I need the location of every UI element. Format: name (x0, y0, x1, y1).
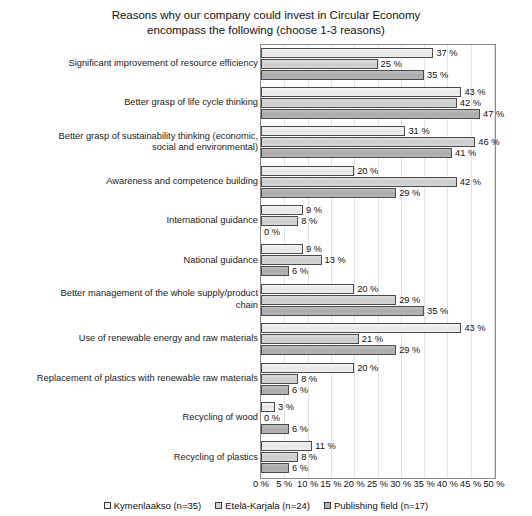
bar-group: 37 %25 %35 % (261, 48, 494, 80)
bar[interactable] (261, 177, 457, 187)
bar-value-label: 21 % (362, 334, 383, 344)
bar[interactable] (261, 109, 480, 119)
bar[interactable] (261, 374, 298, 384)
category-label-line: National guidance (8, 255, 258, 267)
bar-value-label: 43 % (464, 323, 485, 333)
bar-value-label: 8 % (301, 452, 317, 462)
bar[interactable] (261, 284, 354, 294)
legend-item[interactable]: Etelä-Karjala (n=24) (215, 500, 310, 511)
bar-group: 11 %8 %6 % (261, 441, 494, 473)
bar-value-label: 20 % (357, 284, 378, 294)
bar-slot: 6 % (261, 385, 494, 395)
legend-swatch-icon (215, 502, 222, 509)
bar-group: 20 %8 %6 % (261, 363, 494, 395)
bar-value-label: 43 % (464, 87, 485, 97)
category-label-line: International guidance (8, 215, 258, 227)
category-label: Recycling of plastics (8, 452, 258, 464)
legend-label: Publishing field (n=17) (334, 500, 428, 511)
legend-item[interactable]: Kymenlaakso (n=35) (104, 500, 201, 511)
bar-value-label: 29 % (399, 345, 420, 355)
category-label-line: Replacement of plastics with renewable r… (8, 373, 258, 385)
legend-swatch-icon (104, 502, 111, 509)
bar-value-label: 42 % (460, 177, 481, 187)
bar[interactable] (261, 216, 298, 226)
bar-slot: 29 % (261, 345, 494, 355)
bar[interactable] (261, 424, 289, 434)
chart-container: Reasons why our company could invest in … (0, 0, 532, 516)
chart-row: Better grasp of sustainability thinking … (0, 123, 532, 162)
legend-label: Etelä-Karjala (n=24) (225, 500, 310, 511)
bar[interactable] (261, 452, 298, 462)
bar-value-label: 6 % (292, 463, 308, 473)
bar[interactable] (261, 70, 424, 80)
bar-value-label: 8 % (301, 216, 317, 226)
legend-item[interactable]: Publishing field (n=17) (324, 500, 428, 511)
bar-slot: 8 % (261, 216, 494, 226)
bar[interactable] (261, 98, 457, 108)
bar[interactable] (261, 166, 354, 176)
bar-slot: 0 % (261, 413, 494, 423)
category-label-line: Recycling of plastics (8, 452, 258, 464)
x-axis-tick-label: 5 % (276, 479, 292, 489)
bar-slot: 9 % (261, 205, 494, 215)
bar[interactable] (261, 87, 461, 97)
x-axis-tick-label: 20 % (344, 479, 365, 489)
bar-slot: 47 % (261, 109, 494, 119)
bar-value-label: 20 % (357, 166, 378, 176)
bar-slot: 35 % (261, 306, 494, 316)
bar[interactable] (261, 205, 303, 215)
bar[interactable] (261, 295, 396, 305)
bar[interactable] (261, 306, 424, 316)
bar[interactable] (261, 363, 354, 373)
bar[interactable] (261, 48, 433, 58)
bar-group: 9 %13 %6 % (261, 244, 494, 276)
category-label: Significant improvement of resource effi… (8, 58, 258, 70)
x-axis-tick-label: 25 % (367, 479, 388, 489)
bar[interactable] (261, 441, 312, 451)
bar[interactable] (261, 137, 475, 147)
chart-title-line-2: encompass the following (choose 1-3 reas… (0, 23, 532, 38)
bar[interactable] (261, 334, 359, 344)
bar[interactable] (261, 402, 275, 412)
bar-slot: 37 % (261, 48, 494, 58)
category-label-line: social and environmental) (8, 142, 258, 154)
bar-value-label: 25 % (381, 59, 402, 69)
bar[interactable] (261, 385, 289, 395)
bar-slot: 29 % (261, 295, 494, 305)
bar-rows: Significant improvement of resource effi… (0, 44, 532, 477)
bar-slot: 42 % (261, 98, 494, 108)
bar[interactable] (261, 345, 396, 355)
bar[interactable] (261, 188, 396, 198)
category-label: Replacement of plastics with renewable r… (8, 373, 258, 385)
chart-row: Use of renewable energy and raw material… (0, 320, 532, 359)
bar-value-label: 29 % (399, 295, 420, 305)
category-label: Recycling of wood (8, 412, 258, 424)
bar-value-label: 42 % (460, 98, 481, 108)
bar-slot: 31 % (261, 126, 494, 136)
bar-group: 20 %42 %29 % (261, 166, 494, 198)
bar-value-label: 6 % (292, 266, 308, 276)
bar-slot: 8 % (261, 374, 494, 384)
bar-value-label: 13 % (325, 255, 346, 265)
bar-slot: 3 % (261, 402, 494, 412)
category-label-line: Use of renewable energy and raw material… (8, 333, 258, 345)
x-axis-tick-label: 40 % (437, 479, 458, 489)
bar[interactable] (261, 255, 322, 265)
bar[interactable] (261, 463, 289, 473)
bar-slot: 46 % (261, 137, 494, 147)
bar[interactable] (261, 266, 289, 276)
category-label: Awareness and competence building (8, 176, 258, 188)
bar[interactable] (261, 244, 303, 254)
chart-row: National guidance9 %13 %6 % (0, 241, 532, 280)
bar-value-label: 46 % (478, 137, 499, 147)
bar-slot: 13 % (261, 255, 494, 265)
bar[interactable] (261, 59, 378, 69)
bar-slot: 11 % (261, 441, 494, 451)
bar[interactable] (261, 323, 461, 333)
bar[interactable] (261, 148, 452, 158)
bar[interactable] (261, 126, 405, 136)
bar-slot: 42 % (261, 177, 494, 187)
bar-slot: 21 % (261, 334, 494, 344)
chart-title: Reasons why our company could invest in … (0, 8, 532, 38)
bar-value-label: 29 % (399, 188, 420, 198)
